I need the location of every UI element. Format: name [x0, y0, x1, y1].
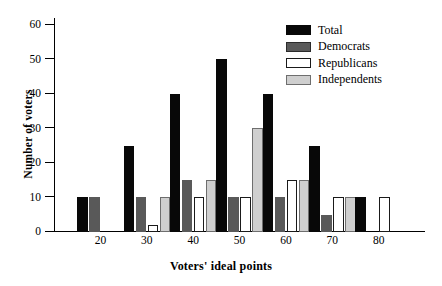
x-tick-label: 80 [373, 234, 385, 246]
y-tick-label: 10 [30, 191, 42, 203]
y-tick-label: 30 [30, 122, 42, 134]
legend-label: Total [318, 23, 343, 38]
chart-legend: TotalDemocratsRepublicansIndependents [286, 22, 382, 88]
bar-total-70 [309, 146, 320, 232]
bar-democrats-30 [136, 197, 147, 232]
y-tick-label: 20 [30, 156, 42, 168]
bar-democrats-70 [321, 215, 332, 232]
legend-item-democrats: Democrats [286, 39, 382, 56]
bar-independents-50 [252, 128, 263, 232]
legend-item-independents: Independents [286, 72, 382, 89]
legend-swatch-democrats [286, 42, 311, 52]
bar-democrats-20 [89, 197, 100, 232]
bar-republicans-30 [148, 225, 159, 232]
x-axis-title: Voters' ideal points [0, 259, 442, 274]
legend-label: Republicans [318, 56, 377, 71]
bar-total-20 [77, 197, 88, 232]
bar-democrats-40 [182, 180, 193, 232]
y-tick-label: 0 [35, 225, 41, 237]
bar-total-60 [263, 94, 274, 232]
bar-independents-70 [345, 197, 356, 232]
x-tick-label: 20 [95, 234, 107, 246]
legend-swatch-total [286, 25, 311, 35]
legend-label: Independents [318, 72, 382, 87]
bar-chart: Number of voters Voters' ideal points 01… [0, 0, 442, 286]
x-tick-label: 40 [187, 234, 199, 246]
bar-republicans-40 [194, 197, 205, 232]
y-tick-label: 50 [30, 53, 42, 65]
bar-republicans-70 [333, 197, 344, 232]
y-tick: 40 [45, 93, 54, 94]
bar-total-80 [355, 197, 366, 232]
bar-total-50 [216, 59, 227, 232]
bar-total-40 [170, 94, 181, 232]
x-tick-label: 70 [327, 234, 339, 246]
y-tick: 30 [45, 127, 54, 128]
legend-item-total: Total [286, 22, 382, 39]
bar-total-30 [124, 146, 135, 232]
legend-swatch-republicans [286, 58, 311, 68]
legend-item-republicans: Republicans [286, 55, 382, 72]
y-tick: 50 [45, 58, 54, 59]
bar-republicans-50 [240, 197, 251, 232]
bar-independents-40 [206, 180, 217, 232]
y-tick: 60 [45, 24, 54, 25]
legend-label: Democrats [318, 39, 370, 54]
bar-democrats-50 [228, 197, 239, 232]
bar-republicans-60 [287, 180, 298, 232]
y-tick: 10 [45, 196, 54, 197]
x-tick-label: 30 [141, 234, 153, 246]
x-tick-label: 50 [234, 234, 246, 246]
legend-swatch-independents [286, 75, 311, 85]
y-tick: 20 [45, 162, 54, 163]
y-tick: 0 [45, 231, 54, 232]
y-tick-label: 60 [30, 18, 42, 30]
bar-democrats-60 [275, 197, 286, 232]
x-tick-label: 60 [280, 234, 292, 246]
bar-independents-30 [160, 197, 171, 232]
y-tick-label: 40 [30, 87, 42, 99]
bar-republicans-80 [379, 197, 390, 232]
bar-independents-60 [299, 180, 310, 232]
